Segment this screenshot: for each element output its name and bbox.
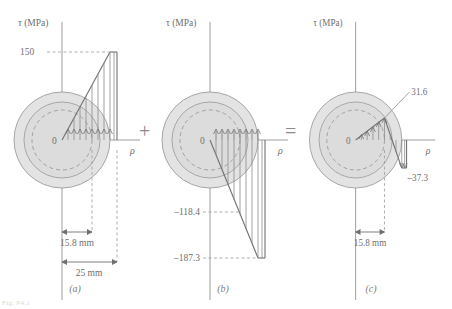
- dimension-line-158-a: [62, 230, 92, 235]
- value-label-316: 31.6: [411, 87, 427, 97]
- equals-operator: =: [285, 121, 296, 141]
- x-axis-label-b: ρ: [277, 145, 283, 156]
- figure-footnote: Fig. P4.1: [2, 299, 30, 307]
- y-axis-label-a: τ (MPa): [18, 18, 48, 29]
- origin-label-b: 0: [200, 136, 205, 146]
- value-label-1873: –187.3: [173, 253, 200, 263]
- panel-caption-a: (a): [0, 283, 150, 294]
- dimension-label-158-a: 15.8 mm: [60, 238, 94, 248]
- plus-operator: +: [139, 121, 150, 141]
- panel-c-diagram: τ (MPa) ρ 0 31.6 –37.3 15.8 mm: [296, 0, 446, 309]
- dimension-label-158-c: 15.8 mm: [354, 238, 387, 248]
- panel-caption-c: (c): [296, 283, 446, 294]
- value-label-1184: –118.4: [173, 207, 200, 217]
- y-axis-label-c: τ (MPa): [313, 18, 342, 29]
- value-label-150: 150: [20, 47, 35, 57]
- value-label-373: –37.3: [407, 173, 429, 183]
- panel-b: τ (MPa) ρ 0 –118.4 –187.3 (b): [148, 0, 298, 309]
- leader-316-c: [384, 92, 409, 118]
- dimension-line-25-a: [62, 260, 117, 265]
- x-axis-label-a: ρ: [129, 145, 135, 156]
- x-axis-label-c: ρ: [425, 145, 431, 156]
- panel-caption-b: (b): [148, 283, 298, 294]
- origin-label-c: 0: [346, 136, 351, 146]
- panel-a-diagram: τ (MPa) ρ 0 150 15.8 mm 25 mm: [0, 0, 150, 309]
- dimension-label-25-a: 25 mm: [76, 268, 103, 278]
- panel-b-diagram: τ (MPa) ρ 0 –118.4 –187.3: [148, 0, 298, 309]
- dimension-line-158-c: [356, 230, 385, 235]
- panel-c: τ (MPa) ρ 0 31.6 –37.3 15.8 mm (c): [296, 0, 446, 309]
- y-axis-label-b: τ (MPa): [166, 18, 196, 29]
- panel-a: τ (MPa) ρ 0 150 15.8 mm 25 mm (a): [0, 0, 150, 309]
- origin-label-a: 0: [52, 136, 57, 146]
